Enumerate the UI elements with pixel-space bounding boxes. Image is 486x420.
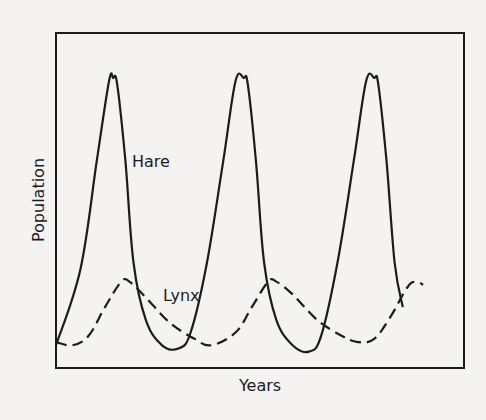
x-axis-label: Years — [238, 376, 281, 395]
chart-page: Hare Lynx Years Population — [0, 0, 486, 420]
hare-series-label: Hare — [132, 152, 170, 171]
hare-series-line — [56, 73, 403, 352]
population-chart: Hare Lynx Years Population — [0, 0, 486, 420]
y-axis-label: Population — [29, 158, 48, 242]
lynx-series-label: Lynx — [163, 286, 200, 305]
lynx-series-line — [56, 279, 423, 346]
